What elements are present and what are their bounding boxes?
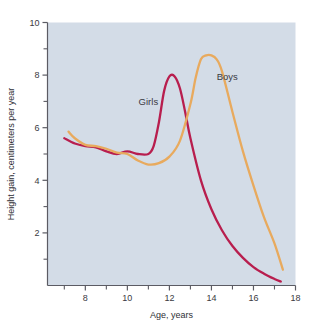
growth-velocity-chart-figure: 24681081012141618GirlsBoysAge, yearsHeig… [0,0,315,327]
x-axis-tick-label: 12 [164,293,174,303]
x-axis-title: Age, years [150,310,194,320]
x-axis-tick-label: 8 [83,293,88,303]
x-axis-tick-label: 14 [206,293,216,303]
y-axis-title: Height gain, centimeters per year [6,88,16,221]
x-axis-tick-label: 10 [122,293,132,303]
y-axis-tick-label: 6 [34,123,39,133]
y-axis-tick-label: 10 [29,18,39,28]
chart-canvas: 24681081012141618GirlsBoysAge, yearsHeig… [0,0,315,327]
x-axis-tick-label: 18 [290,293,300,303]
y-axis-tick-label: 2 [34,228,39,238]
series-annotation-boys: Boys [217,71,238,82]
x-axis-tick-label: 16 [248,293,258,303]
y-axis-tick-label: 8 [34,70,39,80]
series-annotation-girls: Girls [139,96,159,107]
y-axis-tick-label: 4 [34,176,39,186]
